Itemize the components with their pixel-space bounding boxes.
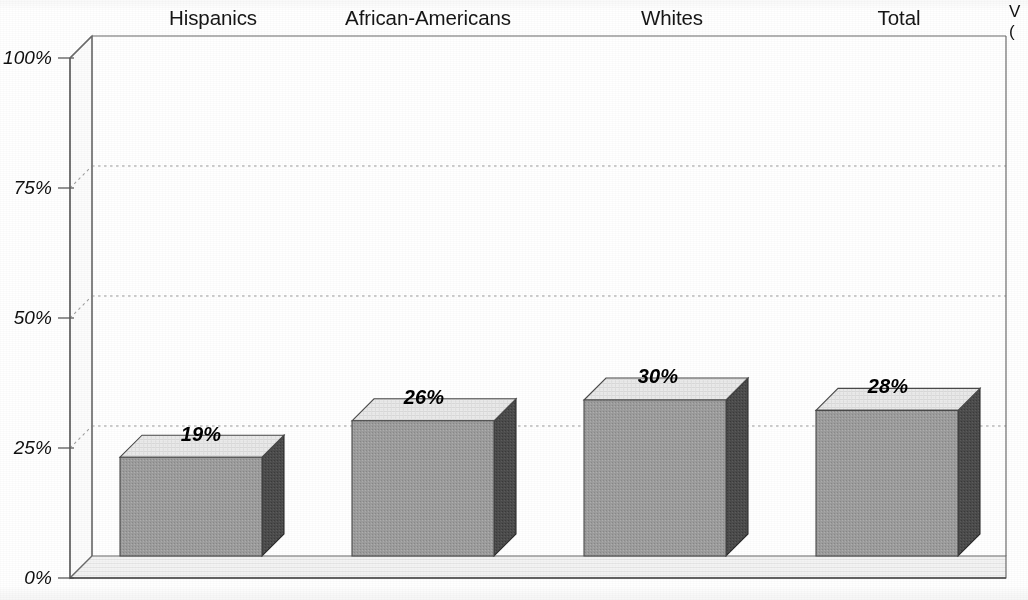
- edge-caption-line2: V: [1009, 2, 1028, 22]
- value-label-whites: 30%: [638, 365, 679, 388]
- y-tick-label-0: 0%: [0, 567, 52, 589]
- y-tick-label-50: 50%: [0, 307, 52, 329]
- plot-left-wall: [70, 36, 92, 578]
- bar-total-side: [958, 388, 980, 556]
- bar-whites[interactable]: [584, 378, 748, 556]
- y-tick-label-100: 100%: [0, 47, 52, 69]
- bar-total-front: [816, 410, 958, 556]
- bar-total[interactable]: [816, 388, 980, 556]
- y-tick-label-75: 75%: [0, 177, 52, 199]
- value-label-total: 28%: [868, 375, 909, 398]
- value-label-african-americans: 26%: [404, 386, 445, 409]
- edge-caption-cropped: V (: [1009, 2, 1028, 64]
- bar-whites-side: [726, 378, 748, 556]
- chart-container: 100% 75% 50% 25% 0% Hispanics African-Am…: [0, 0, 1028, 600]
- bar-hispanics-front: [120, 457, 262, 556]
- bar-whites-front: [584, 400, 726, 556]
- edge-caption-line3: (: [1009, 22, 1028, 42]
- y-tick-label-25: 25%: [0, 437, 52, 459]
- category-label-african-americans: African-Americans: [345, 6, 511, 30]
- value-label-hispanics: 19%: [181, 423, 222, 446]
- bar-chart-graphic: [0, 0, 1028, 600]
- category-label-total: Total: [878, 6, 921, 30]
- bar-hispanics[interactable]: [120, 435, 284, 556]
- category-label-whites: Whites: [641, 6, 703, 30]
- bar-african-americans-side: [494, 399, 516, 556]
- bar-african-americans-front: [352, 421, 494, 556]
- plot-floor: [70, 556, 1006, 578]
- bar-african-americans[interactable]: [352, 399, 516, 556]
- category-label-hispanics: Hispanics: [169, 6, 257, 30]
